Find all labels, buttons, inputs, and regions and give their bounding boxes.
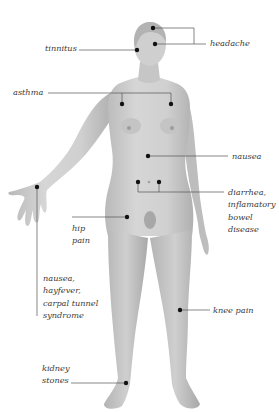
label-knee-pain: knee pain <box>213 304 254 316</box>
marker-nausea <box>146 154 150 158</box>
breast-left <box>121 118 141 134</box>
label-digestive: diarrhea, inflamatory bowel disease <box>228 186 276 236</box>
marker-headache-forehead <box>153 42 157 46</box>
marker-tinnitus <box>135 48 139 52</box>
marker-asthma-right <box>169 102 173 106</box>
navel <box>148 181 151 184</box>
label-tinnitus: tinnitus <box>45 42 77 54</box>
marker-kidney <box>124 381 128 385</box>
marker-asthma-left <box>120 102 124 106</box>
marker-digestive-left <box>136 180 140 184</box>
label-headache: headache <box>210 37 250 49</box>
pubic-area <box>144 211 156 229</box>
label-hip-pain: hip pain <box>72 222 90 247</box>
arm-left-silhouette <box>8 92 112 226</box>
leg-right-silhouette <box>150 230 200 409</box>
marker-knee <box>178 308 182 312</box>
label-nausea: nausea <box>232 150 261 162</box>
nipple-left <box>127 126 131 130</box>
label-asthma: asthma <box>13 86 43 98</box>
marker-digestive-right <box>157 180 161 184</box>
breast-right <box>160 118 180 134</box>
symptom-diagram: headache tinnitus asthma nausea diarrhea… <box>0 0 279 412</box>
marker-hip <box>125 215 129 219</box>
label-wrist: nausea, hayfever, carpal tunnel syndrome <box>43 272 98 322</box>
nipple-right <box>170 126 174 130</box>
marker-headache-crown <box>151 26 155 30</box>
marker-wrist <box>35 185 39 189</box>
label-kidney-stones: kidney stones <box>42 362 70 387</box>
